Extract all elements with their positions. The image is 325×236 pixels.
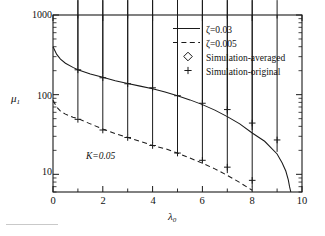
legend-label-zeta-003: ζ=0.03 bbox=[206, 25, 232, 35]
figure-panel: 1000 100 10 μ1 0 2 4 6 8 10 λ0 K=0.05 ζ=… bbox=[0, 0, 325, 236]
y-axis-title-sub: 1 bbox=[17, 98, 21, 106]
legend-glyph-diamond-marker bbox=[184, 52, 193, 61]
legend-label-sim-orig: Simulation-original bbox=[206, 67, 280, 77]
x-axis-title-sub: 0 bbox=[173, 216, 177, 224]
legend-label-sim-avg: Simulation-averaged bbox=[206, 53, 285, 63]
footer-rule bbox=[6, 224, 58, 225]
y-tick-label-100: 100 bbox=[16, 90, 52, 101]
x-tick-label-8: 8 bbox=[242, 195, 262, 206]
y-axis-title: μ1 bbox=[11, 92, 20, 106]
x-axis-title: λ0 bbox=[168, 210, 176, 224]
x-tick-label-10: 10 bbox=[292, 195, 312, 206]
y-tick-label-1000: 1000 bbox=[16, 9, 52, 20]
x-tick-label-6: 6 bbox=[192, 195, 212, 206]
x-tick-label-4: 4 bbox=[143, 195, 163, 206]
y-tick-label-10: 10 bbox=[16, 166, 52, 177]
annotation-k-value: K=0.05 bbox=[86, 151, 115, 161]
x-tick-label-0: 0 bbox=[43, 195, 63, 206]
legend-label-zeta-0005: ζ=0.005 bbox=[206, 39, 237, 49]
x-tick-label-2: 2 bbox=[93, 195, 113, 206]
